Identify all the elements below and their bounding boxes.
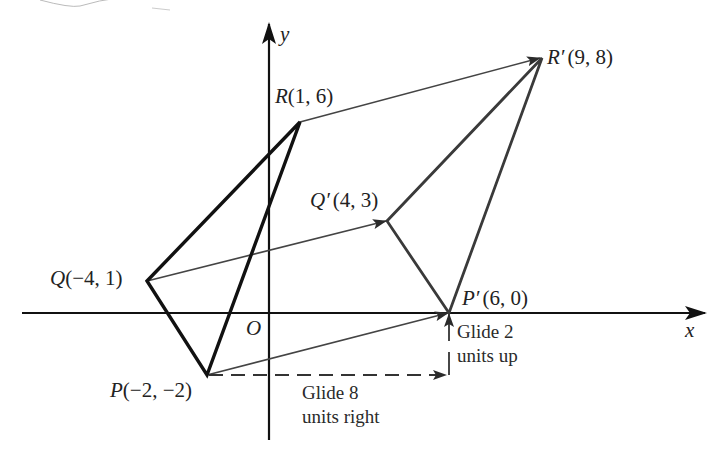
vector-P-to-Pprime [207,313,448,375]
triangle-PprimeQprimeRprime [387,58,542,313]
glide-right-line2: units right [302,405,380,429]
point-name-Q: Q [50,266,65,290]
vector-Q-to-Qprime [147,221,386,281]
point-label-R: R(1, 6) [275,86,333,107]
point-coords-R: (1, 6) [288,84,334,108]
x-axis-label: x [685,320,694,341]
origin-label: O [246,318,261,339]
point-coords-Q: (−4, 1) [65,266,122,290]
glide-up-line2: units up [457,344,518,368]
point-label-Rprime: R′(9, 8) [547,47,613,68]
point-coords-Qprime: (4, 3) [333,188,379,212]
point-name-Rprime: R′ [547,45,564,69]
point-name-R: R [275,84,288,108]
point-label-P: P(−2, −2) [110,380,192,401]
point-coords-P: (−2, −2) [123,378,192,402]
vector-R-to-Rprime [300,58,540,122]
glide-right-annotation: Glide 8 units right [302,381,380,429]
point-name-P: P [110,378,123,402]
glide-up-line1: Glide 2 [457,320,518,344]
glide-up-annotation: Glide 2 units up [457,320,518,368]
point-coords-Rprime: (9, 8) [567,45,613,69]
point-name-Pprime: P′ [462,286,479,310]
point-label-Q: Q(−4, 1) [50,268,123,289]
point-name-Qprime: Q′ [310,188,330,212]
point-label-Qprime: Q′(4, 3) [310,190,378,211]
y-axis-label: y [280,24,289,45]
point-coords-Pprime: (6, 0) [482,286,528,310]
point-label-Pprime: P′(6, 0) [462,288,528,309]
scan-artifact [40,0,118,6]
glide-right-line1: Glide 8 [302,381,380,405]
scan-artifact [152,8,170,10]
